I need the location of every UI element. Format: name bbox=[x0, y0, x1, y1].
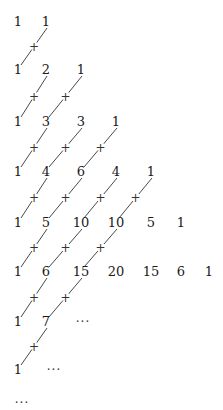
triangle-entry: 6 bbox=[42, 264, 50, 279]
triangle-entry: 20 bbox=[108, 264, 125, 279]
triangle-entry: 7 bbox=[42, 314, 50, 329]
plus-sign: + bbox=[29, 340, 39, 354]
triangle-entry: 3 bbox=[42, 114, 50, 129]
plus-sign: + bbox=[29, 141, 39, 155]
plus-sign: + bbox=[29, 40, 39, 54]
triangle-entry: 1 bbox=[14, 62, 22, 77]
plus-sign: + bbox=[29, 241, 39, 255]
ellipsis: ··· bbox=[15, 396, 29, 410]
pascal-triangle-diagram: ++++++++++++++++ 11121133114641151010511… bbox=[0, 0, 223, 410]
plus-sign: + bbox=[95, 241, 105, 255]
ellipsis: ··· bbox=[47, 363, 61, 377]
triangle-entry: 1 bbox=[205, 264, 213, 279]
triangle-entry: 1 bbox=[77, 62, 85, 77]
triangle-entry: 1 bbox=[177, 215, 185, 230]
plus-sign: + bbox=[95, 141, 105, 155]
triangle-entry: 15 bbox=[73, 264, 90, 279]
triangle-entry: 1 bbox=[14, 215, 22, 230]
plus-sign: + bbox=[60, 191, 70, 205]
triangle-entry: 1 bbox=[14, 362, 22, 377]
triangle-entry: 3 bbox=[77, 114, 85, 129]
plus-sign: + bbox=[60, 241, 70, 255]
triangle-entry: 5 bbox=[147, 215, 155, 230]
triangle-entry: 10 bbox=[108, 215, 125, 230]
triangle-entry: 1 bbox=[14, 114, 22, 129]
triangle-entry: 4 bbox=[42, 164, 50, 179]
triangle-entry: 6 bbox=[177, 264, 185, 279]
triangle-numbers: 1112113311464115101051161520156117···1··… bbox=[14, 14, 213, 410]
triangle-entry: 1 bbox=[14, 164, 22, 179]
plus-sign: + bbox=[29, 90, 39, 104]
triangle-entry: 5 bbox=[42, 215, 50, 230]
triangle-entry: 1 bbox=[147, 164, 155, 179]
plus-sign: + bbox=[60, 141, 70, 155]
triangle-entry: 1 bbox=[14, 14, 22, 29]
triangle-entry: 2 bbox=[42, 62, 50, 77]
plus-signs: ++++++++++++++++ bbox=[29, 40, 141, 354]
plus-sign: + bbox=[60, 90, 70, 104]
triangle-entry: 1 bbox=[112, 114, 120, 129]
triangle-entry: 4 bbox=[112, 164, 120, 179]
ellipsis: ··· bbox=[76, 315, 90, 329]
plus-sign: + bbox=[29, 291, 39, 305]
plus-sign: + bbox=[29, 191, 39, 205]
triangle-entry: 15 bbox=[143, 264, 160, 279]
triangle-entry: 1 bbox=[42, 14, 50, 29]
plus-sign: + bbox=[60, 291, 70, 305]
plus-sign: + bbox=[130, 191, 140, 205]
triangle-entry: 6 bbox=[77, 164, 85, 179]
triangle-entry: 1 bbox=[14, 314, 22, 329]
triangle-entry: 1 bbox=[14, 264, 22, 279]
plus-sign: + bbox=[95, 191, 105, 205]
triangle-entry: 10 bbox=[73, 215, 90, 230]
